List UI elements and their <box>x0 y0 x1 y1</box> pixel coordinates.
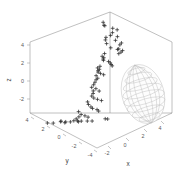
plot-canvas: 4 2 0 -2 z 4 2 0 -2 -4 y -2 0 <box>0 0 185 186</box>
x-tick-mark <box>144 129 147 132</box>
figure-3d-scatter: 4 2 0 -2 z 4 2 0 -2 -4 y -2 0 <box>0 0 185 186</box>
y-axis-title: y <box>65 157 69 165</box>
z-axis-title: z <box>5 78 12 81</box>
x-tick-label: 2 <box>142 133 145 139</box>
x-tick-mark <box>126 138 129 141</box>
z-tick-label: -2 <box>19 96 24 102</box>
y-tick-label: -2 <box>72 143 77 149</box>
y-tick-mark <box>47 126 50 128</box>
y-tick-label: 2 <box>42 126 45 132</box>
x-axis-title: x <box>126 160 130 167</box>
y-tick-label: -4 <box>88 152 93 158</box>
z-axis: 4 2 0 -2 z <box>5 42 30 102</box>
y-tick-mark <box>63 134 66 136</box>
y-tick-mark <box>31 117 34 119</box>
z-tick-label: 0 <box>21 78 24 84</box>
z-tick-label: 2 <box>21 60 24 66</box>
y-tick-mark <box>94 150 97 152</box>
z-tick-label: 4 <box>21 42 24 48</box>
x-tick-label: 4 <box>159 125 162 131</box>
x-tick-mark <box>108 146 111 149</box>
x-tick-label: 0 <box>124 142 127 148</box>
x-tick-mark <box>161 121 164 124</box>
x-tick-label: -2 <box>105 150 110 156</box>
y-tick-label: 0 <box>58 134 61 140</box>
y-tick-label: 4 <box>26 117 29 123</box>
y-tick-mark <box>79 142 82 144</box>
